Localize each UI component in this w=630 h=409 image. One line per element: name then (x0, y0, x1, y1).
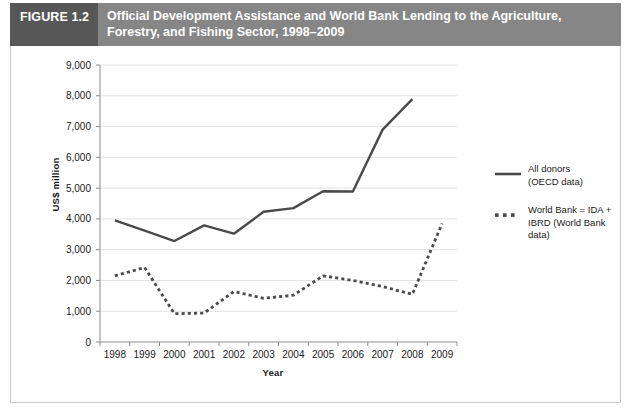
y-tick-label: 4,000 (66, 213, 91, 224)
x-tick-label: 2006 (342, 349, 365, 360)
x-tick-label: 2001 (193, 349, 216, 360)
legend-label-line1: World Bank = IDA + (528, 204, 620, 217)
legend-label-line2: (OECD data) (528, 176, 583, 189)
x-tick-label: 2000 (163, 349, 186, 360)
x-tick-label: 2004 (282, 349, 305, 360)
y-tick-label: 2,000 (66, 275, 91, 286)
x-tick-label: 2005 (312, 349, 335, 360)
figure-title: Official Development Assistance and Worl… (98, 3, 621, 46)
legend-item-all-donors: All donors (OECD data) (495, 163, 620, 188)
y-tick-label: 9,000 (66, 60, 91, 71)
chart-legend: All donors (OECD data) World Bank = IDA … (495, 163, 620, 258)
figure-header: FIGURE 1.2 Official Development Assistan… (10, 3, 621, 46)
x-tick-label: 2008 (401, 349, 424, 360)
x-tick-labels: 1998199920002001200220032004200520062007… (104, 349, 454, 360)
legend-swatch-dotted-line-icon (495, 207, 521, 218)
legend-label-all-donors: All donors (OECD data) (528, 163, 583, 188)
y-tick-label: 0 (85, 337, 91, 348)
data-series-group (115, 99, 442, 314)
x-tick-marks (100, 342, 457, 346)
y-tick-label: 6,000 (66, 152, 91, 163)
x-tick-label: 2002 (223, 349, 246, 360)
x-tick-label: 2007 (372, 349, 395, 360)
y-tick-label: 3,000 (66, 244, 91, 255)
x-axis-title: Year (100, 367, 446, 378)
y-tick-labels: 01,0002,0003,0004,0005,0006,0007,0008,00… (66, 60, 91, 348)
y-tick-label: 7,000 (66, 121, 91, 132)
series-line (115, 99, 413, 241)
y-tick-label: 1,000 (66, 306, 91, 317)
x-tick-label: 2003 (253, 349, 276, 360)
legend-label-world-bank: World Bank = IDA + IBRD (World Bank data… (528, 204, 620, 242)
x-tick-label: 2009 (431, 349, 454, 360)
legend-label-line2: IBRD (World Bank data) (528, 217, 620, 242)
x-tick-label: 1998 (104, 349, 127, 360)
y-tick-label: 5,000 (66, 183, 91, 194)
x-tick-label: 1999 (134, 349, 157, 360)
y-tick-marks (96, 65, 100, 342)
figure-number-label: FIGURE 1.2 (10, 3, 98, 46)
y-axis-title: US$ million (50, 130, 61, 240)
y-tick-label: 8,000 (66, 90, 91, 101)
legend-label-line1: All donors (528, 163, 583, 176)
gridlines-group (100, 65, 457, 311)
legend-swatch-solid-line-icon (495, 166, 521, 177)
legend-item-world-bank: World Bank = IDA + IBRD (World Bank data… (495, 204, 620, 242)
chart-body: 01,0002,0003,0004,0005,0006,0007,0008,00… (11, 46, 620, 402)
